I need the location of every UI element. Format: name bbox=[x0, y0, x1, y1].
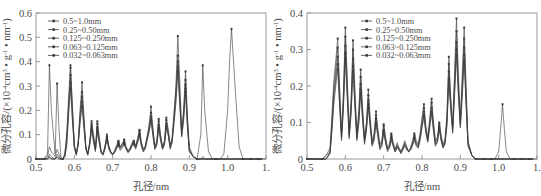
data-point-marker bbox=[422, 107, 424, 109]
x-axis-title: 孔径/nm bbox=[403, 180, 439, 192]
data-point-marker bbox=[344, 52, 346, 54]
data-point-marker bbox=[455, 17, 457, 19]
data-point-marker bbox=[382, 129, 384, 131]
data-point-marker bbox=[455, 49, 457, 51]
y-tick-label: 0.4 bbox=[19, 56, 33, 67]
data-point-marker bbox=[91, 123, 93, 125]
data-point-marker bbox=[165, 125, 167, 127]
data-point-marker bbox=[336, 56, 338, 58]
y-tick-label: 0.1 bbox=[289, 117, 302, 128]
data-point-marker bbox=[367, 107, 369, 109]
data-point-marker bbox=[165, 119, 167, 121]
data-point-marker bbox=[185, 79, 187, 81]
data-point-marker bbox=[81, 96, 83, 98]
x-tick-label: 0.6 bbox=[338, 162, 351, 173]
x-tick-label: 0.8 bbox=[415, 162, 428, 173]
data-point-marker bbox=[359, 69, 361, 71]
data-point-marker bbox=[165, 128, 167, 130]
y-axis-title: 微分孔容/(×10-4cm3 • g-1 • nm-1) bbox=[271, 18, 284, 154]
legend-marker-icon bbox=[365, 54, 368, 57]
data-point-marker bbox=[106, 139, 108, 141]
data-point-marker bbox=[513, 158, 515, 160]
data-point-marker bbox=[336, 63, 338, 65]
data-point-marker bbox=[422, 111, 424, 113]
series-line bbox=[36, 56, 262, 159]
data-point-marker bbox=[196, 158, 198, 160]
data-point-marker bbox=[257, 158, 259, 160]
svg-text:微分孔容/(×10-4cm3 • g-1 • nm-1): 微分孔容/(×10-4cm3 • g-1 • nm-1) bbox=[0, 18, 13, 154]
x-tick-label: 1.0 bbox=[492, 162, 505, 173]
data-point-marker bbox=[231, 28, 233, 30]
data-point-marker bbox=[336, 38, 338, 40]
data-point-marker bbox=[336, 69, 338, 71]
data-point-marker bbox=[150, 106, 152, 108]
data-point-marker bbox=[375, 122, 377, 124]
data-point-marker bbox=[413, 136, 415, 138]
data-point-marker bbox=[336, 47, 338, 49]
y-axis-title: 微分孔容/(×10-4cm3 • g-1 • nm-1) bbox=[0, 18, 13, 154]
data-point-marker bbox=[70, 64, 72, 66]
data-point-marker bbox=[344, 45, 346, 47]
data-point-marker bbox=[70, 87, 72, 89]
data-point-marker bbox=[150, 118, 152, 120]
data-point-marker bbox=[344, 58, 346, 60]
data-point-marker bbox=[352, 58, 354, 60]
data-point-marker bbox=[430, 107, 432, 109]
data-point-marker bbox=[382, 125, 384, 127]
data-point-marker bbox=[390, 136, 392, 138]
data-point-marker bbox=[413, 132, 415, 134]
x-tick-label: 0.9 bbox=[453, 162, 466, 173]
data-point-marker bbox=[438, 129, 440, 131]
legend: 0.5~1.0mm0.25~0.50mm0.125~0.250mm0.063~0… bbox=[48, 17, 118, 60]
data-point-marker bbox=[430, 101, 432, 103]
data-point-marker bbox=[390, 134, 392, 136]
y-tick-label: 0 bbox=[27, 154, 32, 165]
x-tick-label: 0.7 bbox=[377, 162, 390, 173]
data-point-marker bbox=[352, 65, 354, 67]
data-point-marker bbox=[474, 158, 476, 160]
data-point-marker bbox=[438, 122, 440, 124]
data-point-marker bbox=[359, 83, 361, 85]
x-tick-label: 0.7 bbox=[106, 162, 119, 173]
data-point-marker bbox=[250, 158, 252, 160]
data-point-marker bbox=[96, 126, 98, 128]
data-point-marker bbox=[96, 129, 98, 131]
data-point-marker bbox=[463, 27, 465, 29]
y-tick-label: 0.2 bbox=[289, 81, 302, 92]
data-point-marker bbox=[242, 158, 244, 160]
y-tick-label: 0.6 bbox=[19, 8, 32, 19]
data-point-marker bbox=[455, 30, 457, 32]
data-point-marker bbox=[422, 114, 424, 116]
data-point-marker bbox=[91, 120, 93, 122]
data-point-marker bbox=[133, 143, 135, 145]
data-point-marker bbox=[490, 158, 492, 160]
svg-text:微分孔容/(×10-4cm3 • g-1 • nm-1): 微分孔容/(×10-4cm3 • g-1 • nm-1) bbox=[271, 18, 284, 154]
legend-label: 0.032~0.063mm bbox=[376, 51, 431, 60]
legend-marker-icon bbox=[365, 20, 368, 23]
data-point-marker bbox=[438, 127, 440, 129]
data-point-marker bbox=[430, 98, 432, 100]
data-point-marker bbox=[177, 70, 179, 72]
plot-area-right: 0.50.60.70.80.91.01.00.10.20.30.4孔径/nm微分… bbox=[271, 0, 541, 196]
data-point-marker bbox=[306, 158, 308, 160]
data-point-marker bbox=[177, 35, 179, 37]
data-point-marker bbox=[150, 120, 152, 122]
data-point-marker bbox=[70, 74, 72, 76]
data-point-marker bbox=[438, 123, 440, 125]
data-point-marker bbox=[447, 56, 449, 58]
data-point-marker bbox=[43, 158, 45, 160]
data-point-marker bbox=[367, 94, 369, 96]
data-point-marker bbox=[158, 120, 160, 122]
data-point-marker bbox=[81, 101, 83, 103]
data-point-marker bbox=[139, 130, 141, 132]
data-point-marker bbox=[185, 70, 187, 72]
data-point-marker bbox=[463, 47, 465, 49]
x-tick-label: 0.6 bbox=[68, 162, 81, 173]
x-axis-title: 孔径/nm bbox=[133, 180, 169, 192]
data-point-marker bbox=[382, 132, 384, 134]
legend-marker-icon bbox=[52, 46, 55, 49]
data-point-marker bbox=[158, 126, 160, 128]
data-point-marker bbox=[447, 70, 449, 72]
x-tick-label: 1. bbox=[262, 162, 270, 173]
legend: 0.5~1.0mm0.25~0.50mm0.125~0.250mm0.063~0… bbox=[361, 17, 431, 60]
